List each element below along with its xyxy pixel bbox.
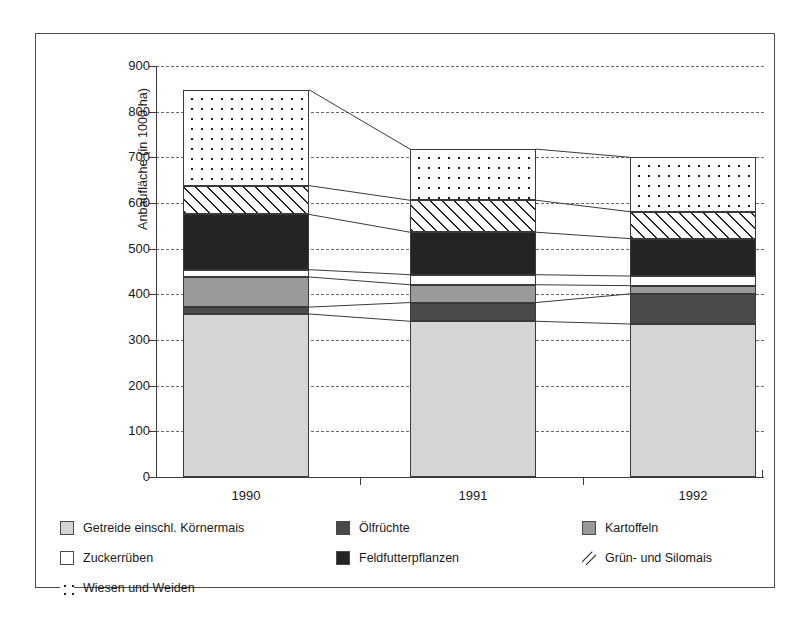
y-tick-label: 100	[90, 424, 150, 437]
y-tick-label: 500	[90, 242, 150, 255]
x-axis-end-cap	[762, 470, 763, 478]
bar-segment-gruenmais[interactable]	[630, 212, 756, 239]
bar-segment-feldfutter[interactable]	[183, 214, 309, 269]
swatch-black-icon	[336, 551, 350, 565]
chart-frame: Anbaufläche (in 1000 ha) 010020030040050…	[35, 33, 775, 588]
connector-line	[309, 90, 410, 149]
connector-line	[309, 270, 410, 275]
legend-label: Kartoffeln	[605, 522, 658, 535]
bar-segment-zuckerrueben[interactable]	[183, 270, 309, 277]
bar-segment-feldfutter[interactable]	[410, 232, 536, 274]
legend-item[interactable]: Getreide einschl. Körnermais	[60, 521, 244, 535]
bar-segment-wiesen[interactable]	[630, 157, 756, 211]
stacked-bar[interactable]	[630, 157, 756, 477]
bar-segment-oelfruechte[interactable]	[630, 294, 756, 324]
y-tick-label: 300	[90, 333, 150, 346]
legend-item[interactable]: Wiesen und Weiden	[60, 581, 195, 595]
x-tick-label: 1991	[428, 488, 518, 503]
bar-segment-zuckerrueben[interactable]	[410, 275, 536, 285]
legend-label: Feldfutterpflanzen	[359, 552, 459, 565]
bar-segment-gruenmais[interactable]	[410, 200, 536, 232]
swatch-white-icon	[60, 551, 74, 565]
y-tick-label: 700	[90, 150, 150, 163]
swatch-medium-gray-icon	[582, 521, 596, 535]
bar-segment-getreide[interactable]	[630, 324, 756, 477]
swatch-dots-icon	[60, 581, 74, 595]
swatch-diagonal-hatch-icon	[582, 551, 596, 565]
chart-legend: Getreide einschl. KörnermaisÖlfrüchteKar…	[60, 521, 760, 583]
legend-item[interactable]: Grün- und Silomais	[582, 551, 712, 565]
bar-segment-kartoffeln[interactable]	[630, 286, 756, 294]
connector-line	[536, 149, 630, 157]
y-tick-label: 400	[90, 287, 150, 300]
connector-line	[309, 186, 410, 201]
legend-label: Getreide einschl. Körnermais	[83, 522, 244, 535]
legend-label: Zuckerrüben	[83, 552, 153, 565]
gridline	[156, 66, 764, 67]
y-tick-label: 900	[90, 59, 150, 72]
y-tick-label: 800	[90, 105, 150, 118]
connector-line	[309, 303, 410, 308]
stacked-bar[interactable]	[410, 149, 536, 477]
x-tick-label: 1990	[201, 488, 291, 503]
connector-line	[309, 277, 410, 285]
x-tick-mark	[583, 477, 584, 485]
connector-line	[536, 232, 630, 238]
connector-line	[309, 214, 410, 232]
connector-line	[536, 275, 630, 276]
connector-line	[536, 321, 630, 324]
swatch-light-gray-icon	[60, 521, 74, 535]
connector-line	[536, 285, 630, 286]
y-axis-line	[156, 66, 157, 477]
legend-item[interactable]: Kartoffeln	[582, 521, 658, 535]
bar-segment-zuckerrueben[interactable]	[630, 276, 756, 286]
legend-label: Grün- und Silomais	[605, 552, 712, 565]
bar-segment-kartoffeln[interactable]	[410, 285, 536, 303]
bar-segment-oelfruechte[interactable]	[183, 307, 309, 314]
y-tick-label: 0	[90, 470, 150, 483]
bar-segment-getreide[interactable]	[183, 314, 309, 477]
x-tick-mark	[360, 477, 361, 485]
stacked-bar[interactable]	[183, 90, 309, 477]
bar-segment-wiesen[interactable]	[183, 90, 309, 186]
x-axis-line	[156, 477, 764, 478]
legend-item[interactable]: Feldfutterpflanzen	[336, 551, 459, 565]
bar-segment-kartoffeln[interactable]	[183, 277, 309, 307]
connector-line	[536, 200, 630, 211]
swatch-dark-gray-icon	[336, 521, 350, 535]
y-tick-label: 600	[90, 196, 150, 209]
x-tick-label: 1992	[648, 488, 738, 503]
legend-label: Wiesen und Weiden	[83, 582, 195, 595]
bar-segment-oelfruechte[interactable]	[410, 303, 536, 322]
legend-item[interactable]: Ölfrüchte	[336, 521, 410, 535]
bar-segment-getreide[interactable]	[410, 321, 536, 477]
legend-item[interactable]: Zuckerrüben	[60, 551, 153, 565]
legend-label: Ölfrüchte	[359, 522, 410, 535]
bar-segment-gruenmais[interactable]	[183, 186, 309, 215]
y-tick-label: 200	[90, 379, 150, 392]
bar-segment-feldfutter[interactable]	[630, 239, 756, 276]
connector-line	[309, 314, 410, 321]
plot-area: 0100200300400500600700800900 19901991199…	[156, 66, 764, 509]
chart-figure: Anbaufläche (in 1000 ha) 010020030040050…	[0, 0, 810, 629]
bar-segment-wiesen[interactable]	[410, 149, 536, 200]
